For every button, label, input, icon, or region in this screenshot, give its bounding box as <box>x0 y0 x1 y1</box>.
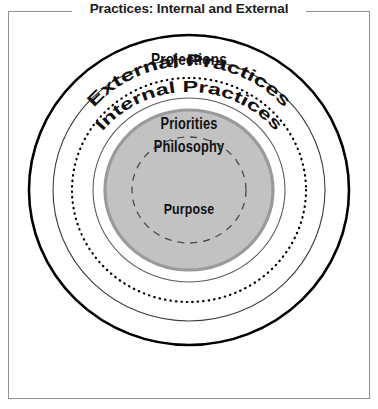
ring-label-philosophy: Philosophy <box>38 138 340 156</box>
ring-label-purpose: Purpose <box>38 200 340 218</box>
ring-label-projections: Projections <box>38 50 340 70</box>
ring-label-priorities: Priorities <box>38 115 340 133</box>
figure-root: Practices: Internal and External Exte <box>0 0 378 409</box>
